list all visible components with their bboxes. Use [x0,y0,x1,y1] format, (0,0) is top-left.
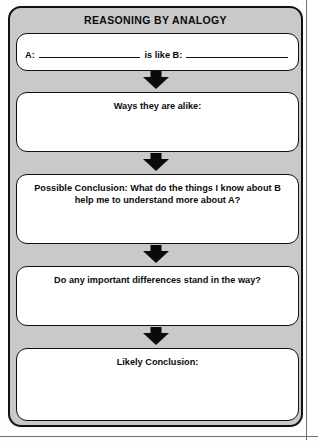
page-title: REASONING BY ANALOGY [10,14,301,26]
possible-conclusion-label: Possible Conclusion: What do the things … [27,182,288,206]
arrow-head [143,159,169,171]
arrow-down-icon [143,327,169,345]
page-margin-rule-horizontal [0,436,318,437]
analogy-statement-box[interactable]: A: is like B: [16,33,299,71]
ways-alike-box[interactable]: Ways they are alike: [16,92,299,152]
reasoning-by-analogy-organizer: REASONING BY ANALOGY A: is like B: Ways … [8,6,303,427]
input-a[interactable] [39,47,141,58]
input-b[interactable] [186,47,288,58]
likely-conclusion-label: Likely Conclusion: [27,356,288,368]
important-differences-label: Do any important differences stand in th… [27,274,288,286]
ways-alike-label: Ways they are alike: [27,100,288,112]
worksheet-page: REASONING BY ANALOGY A: is like B: Ways … [0,0,318,448]
arrow-down-icon [143,153,169,171]
arrow-down-icon [143,245,169,263]
likely-conclusion-box[interactable]: Likely Conclusion: [16,348,299,421]
page-margin-rule-vertical [306,0,307,440]
label-b: is like B: [144,50,182,60]
arrow-down-icon [143,71,169,89]
arrow-head [143,251,169,263]
arrow-head [143,77,169,89]
possible-conclusion-box[interactable]: Possible Conclusion: What do the things … [16,174,299,244]
important-differences-box[interactable]: Do any important differences stand in th… [16,266,299,326]
label-a: A: [25,50,35,60]
arrow-head [143,333,169,345]
analogy-statement-row: A: is like B: [17,47,298,61]
